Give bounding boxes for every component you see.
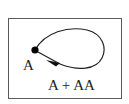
loop-label: A + AA xyxy=(48,77,95,93)
node-label: A xyxy=(23,57,34,73)
node-dot xyxy=(31,46,38,53)
loop-diagram: A A + AA xyxy=(0,0,129,104)
self-loop-edge-tail xyxy=(38,52,60,64)
arrowhead-icon xyxy=(46,60,60,67)
self-loop-edge xyxy=(35,29,104,69)
